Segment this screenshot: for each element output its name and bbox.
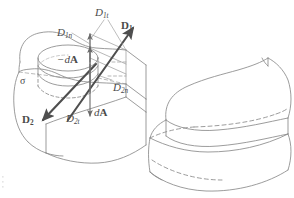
leader-D1n xyxy=(72,33,90,44)
label-D2t-base: D xyxy=(66,112,74,124)
label-minus-dA-bold: A xyxy=(70,53,78,65)
label-D1-sub: 1 xyxy=(129,25,133,33)
label-dA-bold: A xyxy=(100,106,108,118)
label-D1: D1 xyxy=(121,20,133,33)
label-D2n-sub: 2n xyxy=(121,87,128,95)
scan-speck xyxy=(2,176,4,188)
label-minus-dA-text: −d xyxy=(57,53,70,65)
label-dA: dA xyxy=(94,107,107,118)
label-D2t: D2t xyxy=(66,113,80,126)
label-D1t-sub: 1t xyxy=(103,12,109,20)
label-D1t-base: D xyxy=(95,6,103,18)
label-D1-base: D xyxy=(121,19,129,31)
right-solid xyxy=(149,58,292,191)
label-D2-sub: 2 xyxy=(30,119,34,127)
label-minus-dA: −dA xyxy=(57,54,78,65)
label-D1n-base: D xyxy=(57,26,65,38)
label-D2: D2 xyxy=(22,114,34,127)
label-sigma-text: σ xyxy=(20,75,25,86)
label-D1t: D1t xyxy=(95,7,109,20)
figure-root: D1n D1t D1 −dA σ D2n D2 D2t dA xyxy=(0,0,294,198)
label-D2t-sub: 2t xyxy=(74,118,80,126)
label-D1n: D1n xyxy=(57,27,72,40)
label-D2n-base: D xyxy=(113,81,121,93)
label-D2-base: D xyxy=(22,113,30,125)
label-sigma: σ xyxy=(20,76,25,86)
label-D1n-sub: 1n xyxy=(65,32,72,40)
figure-drawing xyxy=(0,0,294,198)
label-D2n: D2n xyxy=(113,82,128,95)
